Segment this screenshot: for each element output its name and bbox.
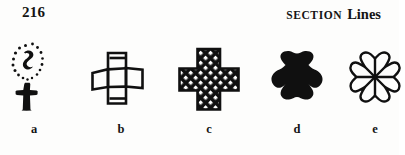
figure-art-a (0, 33, 77, 117)
outline-cross-pattee-with-rays-icon (332, 33, 405, 117)
figure-art-c (166, 33, 252, 117)
figure-panel-b: b (78, 33, 164, 133)
header-title: SectionLines (286, 5, 381, 23)
figure-art-d (254, 33, 340, 117)
figure-panel-e: e (332, 33, 405, 133)
figure-caption-d: d (254, 122, 340, 137)
figure-panel-d: d (254, 33, 340, 133)
figure-caption-c: c (166, 122, 252, 137)
page-number: 216 (22, 4, 45, 21)
crosshatched-greek-cross-icon (166, 33, 252, 117)
figure-panel-c: c (166, 33, 252, 133)
solid-cross-pattee-icon (254, 33, 340, 117)
figure-panel-a: a (0, 33, 77, 133)
figure-caption-a: a (0, 122, 77, 137)
header-smallcaps-word: Section (286, 9, 342, 21)
running-head: 216 SectionLines (0, 4, 399, 24)
figure-art-e (332, 33, 405, 117)
figure-caption-b: b (78, 122, 164, 137)
figure-caption-e: e (332, 122, 405, 137)
figure-strip: a (0, 33, 399, 133)
outline-greek-cross-icon (78, 33, 164, 117)
latin-cross-with-dotted-halo-icon (0, 33, 77, 117)
header-bold-word: Lines (347, 6, 381, 22)
figure-art-b (78, 33, 164, 117)
